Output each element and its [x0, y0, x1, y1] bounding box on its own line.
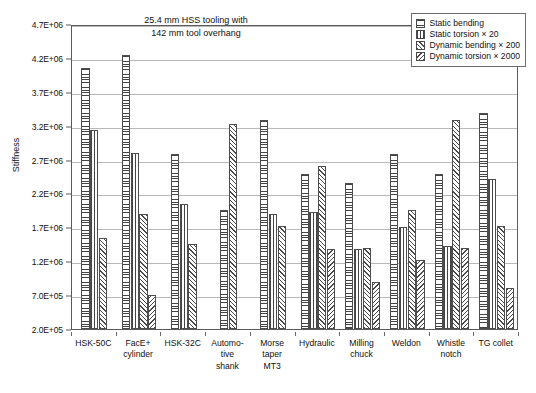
legend-swatch-icon [416, 30, 425, 39]
bar-group [340, 26, 385, 329]
x-axis-category-line: Whistle [429, 338, 474, 349]
x-axis-category-line: MT3 [250, 361, 295, 372]
x-axis-category-line: HSK-50C [71, 338, 116, 349]
plot-area [71, 25, 518, 330]
stiffness-bar-chart: 2.0E+057.0E+051.2E+061.7E+062.2E+062.7E+… [0, 0, 536, 393]
x-axis-tick-mark [429, 332, 430, 336]
y-axis-tick-label: 4.2E+06 [32, 54, 63, 64]
x-axis-tick-mark [473, 332, 474, 336]
x-axis-category-label: FacE+cylinder [116, 338, 161, 361]
bar-group [72, 26, 117, 329]
y-axis-tick-label: 7.0E+05 [32, 291, 63, 301]
x-axis-category-line: chuck [339, 349, 384, 360]
legend-label: Dynamic bending × 200 [429, 40, 520, 50]
bar [171, 154, 179, 329]
chart-annotation: 25.4 mm HSS tooling with 142 mm tool ove… [96, 14, 296, 39]
y-axis-tick-label: 2.2E+06 [32, 189, 63, 199]
legend-label: Static torsion × 20 [429, 29, 498, 39]
bar-group [161, 26, 206, 329]
bar [139, 214, 147, 329]
bar [99, 238, 107, 330]
legend: Static bendingStatic torsion × 20Dynamic… [411, 13, 526, 67]
bar-group [296, 26, 341, 329]
y-axis-tick-label: 2.0E+05 [32, 325, 63, 335]
bar [506, 288, 514, 329]
x-axis-tick-mark [160, 332, 161, 336]
bar-group [474, 26, 519, 329]
x-axis-category-label: Hydraulic [295, 338, 340, 349]
legend-item[interactable]: Static torsion × 20 [416, 29, 520, 39]
x-axis-category-label: Millingchuck [339, 338, 384, 361]
annotation-line-2: 142 mm tool overhang [96, 27, 296, 40]
bar [318, 166, 326, 329]
x-axis-category-label: MorsetaperMT3 [250, 338, 295, 372]
bar [90, 130, 98, 329]
y-axis-tick-label: 1.2E+06 [32, 257, 63, 267]
bar [452, 120, 460, 329]
y-axis-tick-label: 3.7E+06 [32, 88, 63, 98]
bar [435, 174, 443, 329]
bar [269, 214, 277, 329]
y-axis-tick-label: 3.2E+06 [32, 122, 63, 132]
bar [408, 210, 416, 329]
x-axis-category-line: Weldon [384, 338, 429, 349]
bar [461, 248, 469, 329]
x-axis-category-line: FacE+ [116, 338, 161, 349]
x-axis-tick-mark [250, 332, 251, 336]
x-axis-tick-mark [518, 332, 519, 336]
y-axis-tick-label: 4.7E+06 [32, 20, 63, 30]
bar-group [117, 26, 162, 329]
x-axis-category-line: Hydraulic [295, 338, 340, 349]
x-axis-category-label: Whistlenotch [429, 338, 474, 361]
x-axis-category-line: Morse [250, 338, 295, 349]
x-axis-tick-mark [295, 332, 296, 336]
bar [479, 113, 487, 329]
x-axis-tick-mark [116, 332, 117, 336]
x-axis-category-line: Automo- [205, 338, 250, 349]
bar [278, 226, 286, 329]
x-axis-category-line: shank [205, 361, 250, 372]
x-axis-category-label: Weldon [384, 338, 429, 349]
bar [345, 183, 353, 329]
x-axis-category-label: TG collet [473, 338, 518, 349]
bar [390, 154, 398, 329]
bar-group [251, 26, 296, 329]
x-axis-category-line: notch [429, 349, 474, 360]
bar [122, 55, 130, 330]
x-axis-category-label: HSK-50C [71, 338, 116, 349]
bar [309, 212, 317, 329]
legend-item[interactable]: Dynamic bending × 200 [416, 40, 520, 50]
y-axis-tick-label: 2.7E+06 [32, 156, 63, 166]
legend-item[interactable]: Static bending [416, 18, 520, 28]
bar-group [385, 26, 430, 329]
bar [354, 249, 362, 329]
bar [443, 246, 451, 329]
bar-group [206, 26, 251, 329]
bar-group [430, 26, 475, 329]
bar [497, 226, 505, 329]
legend-swatch-icon [416, 52, 425, 61]
bar [180, 204, 188, 329]
bar [220, 210, 228, 329]
bar [81, 68, 89, 329]
y-axis-tick-label: 1.7E+06 [32, 223, 63, 233]
bar [229, 124, 237, 329]
x-axis-category-line: HSK-32C [160, 338, 205, 349]
bar [363, 248, 371, 329]
legend-item[interactable]: Dynamic torsion × 2000 [416, 51, 520, 61]
legend-label: Dynamic torsion × 2000 [429, 51, 520, 61]
legend-label: Static bending [429, 18, 483, 28]
x-axis-category-line: taper [250, 349, 295, 360]
bar [372, 282, 380, 329]
y-axis-title: Stiffness [11, 115, 21, 195]
x-axis: HSK-50CFacE+cylinderHSK-32CAutomo-tivesh… [71, 332, 518, 390]
x-axis-tick-mark [384, 332, 385, 336]
x-axis-tick-mark [339, 332, 340, 336]
x-axis-tick-mark [71, 332, 72, 336]
x-axis-category-line: cylinder [116, 349, 161, 360]
legend-swatch-icon [416, 41, 425, 50]
x-axis-tick-mark [205, 332, 206, 336]
annotation-line-1: 25.4 mm HSS tooling with [96, 14, 296, 27]
legend-swatch-icon [416, 19, 425, 28]
bar [399, 227, 407, 329]
